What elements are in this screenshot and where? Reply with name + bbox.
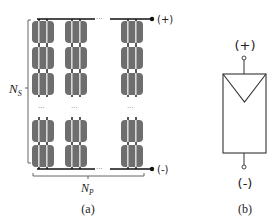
pv-string-1 xyxy=(32,19,54,169)
series-bracket xyxy=(25,20,31,163)
bus-ellipsis-top: ··· xyxy=(96,15,103,23)
positive-terminal-label-b: (+) xyxy=(234,38,255,53)
pv-cell xyxy=(121,120,143,142)
pv-array-symbol xyxy=(223,74,266,153)
parallel-count-label: NP xyxy=(80,181,94,197)
pv-cell xyxy=(32,73,54,95)
negative-terminal-label-a: (-) xyxy=(157,164,169,175)
diode-triangle-icon xyxy=(223,74,266,102)
negative-terminal-node xyxy=(242,165,246,169)
pv-cell xyxy=(65,21,87,43)
parallel-bracket xyxy=(33,173,144,179)
pv-cell xyxy=(32,145,54,167)
pv-string-n xyxy=(121,19,143,169)
pv-cell xyxy=(65,47,87,69)
panel-b: (+) (-) (b) xyxy=(223,38,266,216)
positive-terminal-node xyxy=(242,56,246,60)
panel-a: NS ··· (+) ··· (-) ··· xyxy=(8,14,173,216)
negative-node-dot xyxy=(150,167,154,171)
negative-terminal-label-b: (-) xyxy=(238,176,253,191)
string-1-ellipsis: ··· xyxy=(38,104,45,112)
positive-node-dot xyxy=(150,17,154,21)
series-count-label: NS xyxy=(8,81,22,98)
pv-cell xyxy=(32,47,54,69)
pv-cell xyxy=(32,21,54,43)
pv-cell xyxy=(65,145,87,167)
string-n-ellipsis: ··· xyxy=(127,104,134,112)
bus-ellipsis-bottom: ··· xyxy=(96,165,103,173)
pv-cell xyxy=(121,73,143,95)
pv-cell xyxy=(121,21,143,43)
pv-string-2 xyxy=(65,19,87,169)
pv-cell xyxy=(65,73,87,95)
positive-terminal-label-a: (+) xyxy=(157,14,173,25)
string-2-ellipsis: ··· xyxy=(71,104,78,112)
caption-a: (a) xyxy=(81,202,94,216)
pv-array-diagram: NS ··· (+) ··· (-) ··· xyxy=(0,0,275,222)
pv-cell xyxy=(121,47,143,69)
caption-b: (b) xyxy=(238,202,252,216)
pv-cell xyxy=(65,120,87,142)
pv-cell xyxy=(121,145,143,167)
pv-cell xyxy=(32,120,54,142)
